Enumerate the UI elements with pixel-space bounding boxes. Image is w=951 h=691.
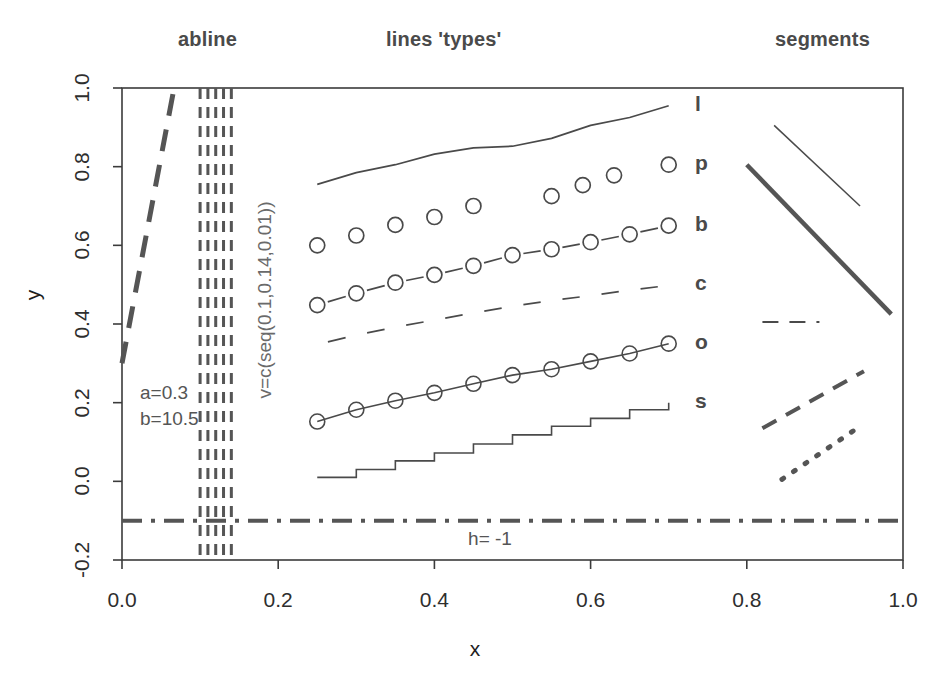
data-series xyxy=(310,106,676,478)
series-point-p xyxy=(310,238,325,253)
plot-area xyxy=(0,0,951,691)
series-line-b xyxy=(640,228,658,232)
series-line-c xyxy=(484,308,501,311)
series-line-b xyxy=(445,268,463,272)
series-line-b xyxy=(406,277,423,281)
series-point-p xyxy=(427,210,442,225)
abline-diagonal xyxy=(122,88,174,363)
series-point-p xyxy=(388,217,403,232)
series-point-p xyxy=(661,157,676,172)
series-line-c xyxy=(562,297,579,299)
series-point-b xyxy=(427,267,442,282)
series-point-b xyxy=(544,242,559,257)
series-point-b xyxy=(310,298,325,313)
series-b xyxy=(310,218,676,312)
series-c xyxy=(328,287,658,342)
series-point-b xyxy=(349,286,364,301)
series-point-p xyxy=(575,178,590,193)
series-line-c xyxy=(641,287,658,289)
series-point-p xyxy=(466,199,481,214)
series-line-b xyxy=(367,286,385,291)
segment-thin-descending xyxy=(774,125,860,206)
series-line-b xyxy=(523,251,540,254)
series-line-c xyxy=(523,302,540,305)
segment-thick-dashed-ascending xyxy=(762,371,864,428)
series-point-b xyxy=(505,248,520,263)
series-point-b xyxy=(583,235,598,250)
series-line-b xyxy=(562,244,579,247)
series-line-c xyxy=(367,329,384,333)
series-point-b xyxy=(466,258,481,273)
series-l xyxy=(317,106,668,185)
series-line-c xyxy=(328,338,346,342)
segments-group xyxy=(747,125,891,479)
series-steps-s xyxy=(317,403,668,478)
series-point-p xyxy=(544,189,559,204)
reference-lines xyxy=(122,88,903,560)
segment-dotted-ascending xyxy=(782,426,860,479)
series-line-o xyxy=(317,344,668,422)
series-line-c xyxy=(601,292,618,294)
figure-canvas: abline lines 'types' segments x y a=0.3 … xyxy=(0,0,951,691)
series-line-l xyxy=(317,106,668,185)
series-point-b xyxy=(622,227,637,242)
series-line-c xyxy=(445,315,462,318)
series-point-p xyxy=(607,168,622,183)
series-s xyxy=(317,403,668,478)
series-line-b xyxy=(601,236,618,240)
series-line-c xyxy=(406,322,423,325)
series-o xyxy=(310,336,676,429)
series-point-b xyxy=(661,218,676,233)
series-point-b xyxy=(388,275,403,290)
frame-rect xyxy=(122,88,903,560)
series-line-b xyxy=(328,297,346,302)
segment-thick-descending xyxy=(747,165,891,314)
series-point-p xyxy=(349,228,364,243)
series-line-b xyxy=(484,258,502,263)
